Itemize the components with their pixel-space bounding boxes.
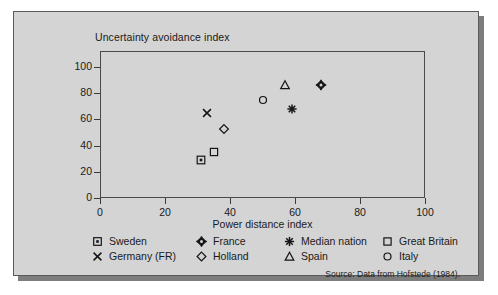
legend-label: Median nation <box>301 235 367 248</box>
square-dot-icon <box>91 235 104 248</box>
x-axis-tick <box>165 198 166 204</box>
x-axis-tick <box>360 198 361 204</box>
y-axis-tick <box>94 146 100 147</box>
data-point-sweden <box>194 153 208 167</box>
x-axis-tick <box>230 198 231 204</box>
data-point-great-britain <box>207 145 221 159</box>
legend-entry-germany-fr: Germany (FR) <box>91 250 176 263</box>
x-axis-tick <box>425 198 426 204</box>
legend-label: Sweden <box>109 235 147 248</box>
circle-icon <box>381 250 394 263</box>
y-axis-tick <box>94 119 100 120</box>
legend-entry-sweden: Sweden <box>91 235 147 248</box>
legend-row: Germany (FR)HollandSpainItaly <box>91 250 471 265</box>
legend-label: Spain <box>301 250 328 263</box>
x-axis-tick-label: 20 <box>145 206 185 218</box>
data-point-germany-fr <box>200 106 214 120</box>
legend-entry-great-britain: Great Britain <box>381 235 458 248</box>
cross-x-icon <box>91 250 104 263</box>
plot-frame <box>100 51 425 198</box>
legend-label: Great Britain <box>399 235 458 248</box>
legend-entry-holland: Holland <box>195 250 249 263</box>
x-axis-tick-label: 80 <box>340 206 380 218</box>
legend-entry-france: France <box>195 235 246 248</box>
legend-label: Italy <box>399 250 418 263</box>
x-axis-title: Power distance index <box>100 218 425 230</box>
legend-row: SwedenFranceMedian nationGreat Britain <box>91 235 471 250</box>
legend-entry-spain: Spain <box>283 250 328 263</box>
figure-root: Uncertainty avoidance index 020406080100… <box>0 0 498 295</box>
legend: SwedenFranceMedian nationGreat Britain G… <box>91 235 471 265</box>
circle-icon <box>256 93 270 107</box>
square-icon <box>381 235 394 248</box>
source-note: Source: Data from Hofstede (1984). <box>325 269 460 279</box>
y-axis-tick-label: 80 <box>62 86 92 98</box>
y-axis-tick-label: 20 <box>62 165 92 177</box>
legend-label: Germany (FR) <box>109 250 176 263</box>
x-axis-tick <box>100 198 101 204</box>
x-axis-tick-label: 100 <box>405 206 445 218</box>
figure-panel: Uncertainty avoidance index 020406080100… <box>13 11 479 276</box>
legend-entry-median-nation: Median nation <box>283 235 367 248</box>
diamond-icon <box>217 122 231 136</box>
x-axis-tick-label: 40 <box>210 206 250 218</box>
asterisk-icon <box>285 102 299 116</box>
y-axis-tick <box>94 172 100 173</box>
legend-entry-italy: Italy <box>381 250 418 263</box>
legend-label: France <box>213 235 246 248</box>
y-axis-tick-label: 0 <box>62 191 92 203</box>
x-axis-tick-label: 0 <box>80 206 120 218</box>
triangle-icon <box>278 78 292 92</box>
y-axis-tick <box>94 67 100 68</box>
legend-label: Holland <box>213 250 249 263</box>
asterisk-icon <box>283 235 296 248</box>
y-axis-tick-label: 60 <box>62 112 92 124</box>
y-axis-tick <box>94 93 100 94</box>
diamond-cross-icon <box>314 78 328 92</box>
y-axis-tick-label: 100 <box>62 60 92 72</box>
data-point-spain <box>278 78 292 92</box>
y-axis-title: Uncertainty avoidance index <box>95 31 230 43</box>
square-icon <box>207 145 221 159</box>
data-point-median-nation <box>285 102 299 116</box>
x-axis-tick <box>295 198 296 204</box>
diamond-cross-icon <box>195 235 208 248</box>
x-axis-tick-label: 60 <box>275 206 315 218</box>
y-axis-tick-label: 40 <box>62 139 92 151</box>
data-point-italy <box>256 93 270 107</box>
diamond-icon <box>195 250 208 263</box>
cross-x-icon <box>200 106 214 120</box>
data-point-holland <box>217 122 231 136</box>
data-point-france <box>314 78 328 92</box>
square-dot-icon <box>194 153 208 167</box>
triangle-icon <box>283 250 296 263</box>
